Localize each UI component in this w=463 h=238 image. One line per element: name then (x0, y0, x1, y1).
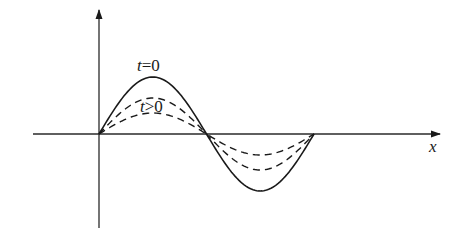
label-t-later: t>0 (140, 97, 163, 116)
x-axis-label: x (428, 137, 437, 156)
wave-diagram: t=0 t>0 x (0, 0, 463, 238)
label-t-zero: t=0 (137, 56, 160, 75)
